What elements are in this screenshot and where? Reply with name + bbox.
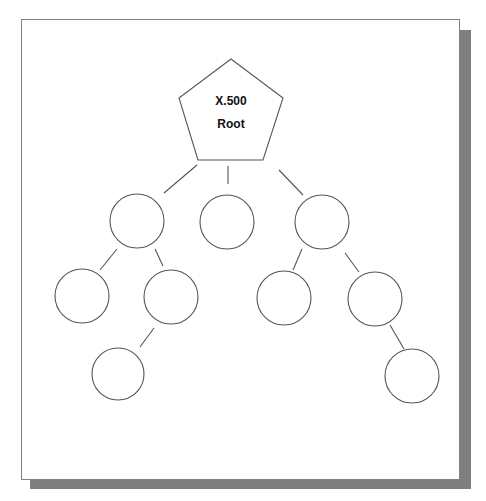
node-level3-right: [385, 349, 439, 403]
tree-diagram: X.500 Root: [0, 0, 486, 501]
root-label-line1: X.500: [215, 94, 247, 108]
edge-level2-right-b-level3-right: [390, 325, 404, 349]
root-label-line2: Root: [217, 117, 244, 131]
edge-level1-left-level2-left-b: [155, 249, 163, 266]
node-level2-left-b: [144, 270, 198, 324]
node-level2-right-a: [257, 271, 311, 325]
edge-level1-right-level2-right-b: [345, 253, 359, 272]
edge-level1-left-level2-left-a: [100, 249, 117, 270]
node-level3-left: [92, 348, 144, 400]
node-level1-right: [295, 195, 349, 249]
edge-level2-left-b-level3-left: [140, 328, 154, 347]
node-level2-right-b: [348, 272, 402, 326]
edge-root-level1-right: [279, 170, 303, 195]
node-level1-left: [110, 194, 164, 248]
edge-root-level1-left: [164, 165, 197, 193]
edge-level1-right-level2-right-a: [293, 249, 302, 270]
root-node-pentagon: [179, 59, 283, 160]
node-level1-middle: [200, 195, 254, 249]
node-level2-left-a: [55, 269, 109, 323]
